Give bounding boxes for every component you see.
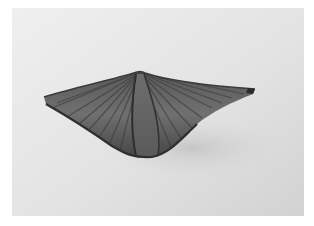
- photo-canvas: [12, 8, 304, 216]
- specimen-photo: [12, 8, 304, 216]
